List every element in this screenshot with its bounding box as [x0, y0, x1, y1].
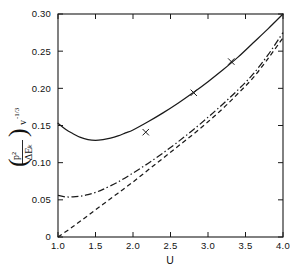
y-tick-label: 0: [46, 231, 51, 242]
y-axis-ticks-right: [278, 14, 283, 237]
series-dash-dot-curve: [58, 33, 283, 197]
plot-frame: [58, 14, 283, 237]
y-label-paren-close: ): [3, 128, 32, 137]
x-marker: [143, 129, 149, 135]
series-solid-curve: [58, 14, 283, 140]
y-label-numerator: p²: [10, 152, 21, 160]
chart-svg: 1.01.52.02.53.03.54.0 00.050.100.150.200…: [0, 0, 299, 273]
x-tick-label: 2.0: [126, 240, 140, 251]
x-tick-label: 4.0: [276, 240, 290, 251]
x-tick-label: 3.5: [239, 240, 253, 251]
y-tick-label: 0.25: [32, 46, 51, 57]
series-dashed-curve: [58, 38, 283, 237]
y-label-denominator: ΔEₖ: [23, 144, 34, 161]
y-tick-label: 0.15: [32, 120, 51, 131]
x-axis-tick-labels: 1.01.52.02.53.03.54.0: [51, 240, 290, 251]
x-tick-label: 3.0: [201, 240, 215, 251]
y-label-outer-variable: v: [17, 120, 28, 125]
x-axis-label: U: [166, 254, 174, 266]
chart-figure: 1.01.52.02.53.03.54.0 00.050.100.150.200…: [0, 0, 299, 273]
x-axis-ticks-top: [58, 14, 283, 19]
y-axis-label: ( p² ΔEₖ ) v -1/3: [3, 107, 34, 167]
x-tick-label: 1.5: [89, 240, 103, 251]
x-marker-group: [143, 58, 235, 135]
x-tick-label: 2.5: [164, 240, 178, 251]
y-axis-tick-labels: 00.050.100.150.200.250.30: [32, 8, 51, 242]
y-tick-label: 0.30: [32, 8, 51, 19]
y-tick-label: 0.05: [32, 194, 51, 205]
y-label-exponent: -1/3: [13, 107, 21, 119]
x-marker: [191, 90, 197, 96]
y-tick-label: 0.20: [32, 83, 51, 94]
x-axis-ticks: [58, 232, 283, 237]
y-tick-label: 0.10: [32, 157, 51, 168]
x-tick-label: 1.0: [51, 240, 65, 251]
